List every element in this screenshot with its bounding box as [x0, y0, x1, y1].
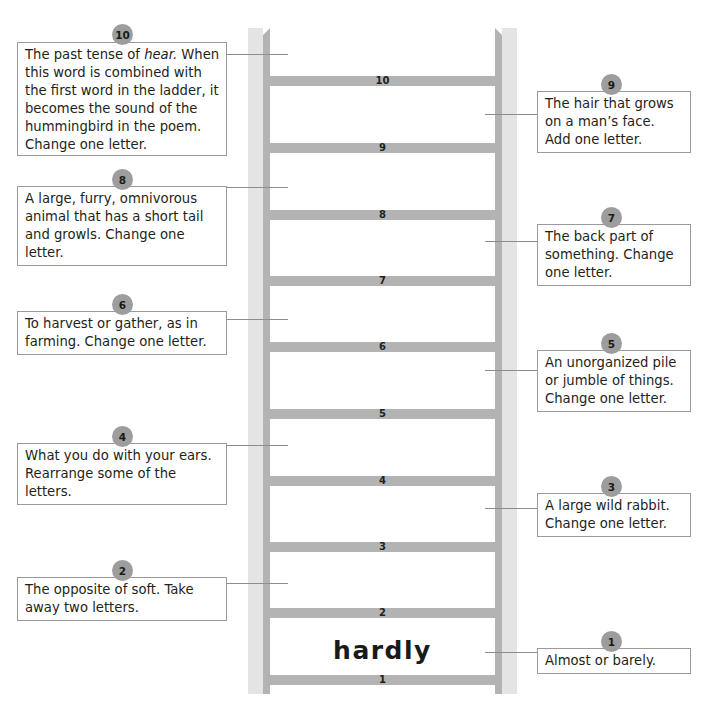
- connector-4: [227, 445, 288, 446]
- rung-7: 7: [270, 276, 495, 286]
- connector-2: [227, 583, 288, 584]
- clue-box-4: What you do with your ears. Rearrange so…: [17, 443, 227, 505]
- answer-slot-3[interactable]: [270, 486, 495, 542]
- number-badge-3: 3: [601, 476, 622, 497]
- ladder-left-rail-face: [248, 28, 263, 694]
- rung-5: 5: [270, 409, 495, 419]
- rung-8: 8: [270, 210, 495, 220]
- answer-slot-10[interactable]: [270, 28, 495, 76]
- connector-7: [485, 241, 537, 242]
- number-badge-10: 10: [112, 24, 133, 45]
- rung-number: 10: [376, 76, 390, 86]
- clue-text: An unorganized pile or jumble of things.…: [545, 355, 676, 406]
- clue-box-8: A large, furry, omnivorous animal that h…: [17, 186, 227, 266]
- answer-slot-9[interactable]: [270, 86, 495, 143]
- rung-number: 9: [379, 143, 386, 153]
- connector-5: [485, 370, 537, 371]
- connector-6: [227, 319, 288, 320]
- rung-number: 6: [379, 342, 386, 352]
- rung-number: 8: [379, 210, 386, 220]
- clue-text-cont: When this word is combined with the firs…: [25, 47, 219, 152]
- ladder-left-rail-side: [263, 28, 270, 694]
- clue-box-7: The back part of something. Change one l…: [537, 224, 691, 286]
- connector-9: [485, 114, 537, 115]
- number-badge-4: 4: [112, 426, 133, 447]
- clue-emphasis: hear.: [144, 47, 177, 62]
- rung-10: 10: [270, 76, 495, 86]
- number-badge-1: 1: [601, 631, 622, 652]
- number-badge-7: 7: [601, 207, 622, 228]
- ladder-right-rail-side: [495, 28, 502, 694]
- rung-3: 3: [270, 542, 495, 552]
- rung-number: 2: [379, 608, 386, 618]
- clue-text: The back part of something. Change one l…: [545, 229, 674, 280]
- rung-4: 4: [270, 476, 495, 486]
- number-badge-6: 6: [112, 294, 133, 315]
- clue-box-3: A large wild rabbit. Change one letter.: [537, 493, 691, 537]
- rung-9: 9: [270, 143, 495, 153]
- answer-slot-5[interactable]: [270, 352, 495, 409]
- clue-box-5: An unorganized pile or jumble of things.…: [537, 350, 691, 412]
- rung-1: 1: [270, 675, 495, 685]
- start-word: hardly: [270, 636, 495, 665]
- connector-8: [227, 187, 288, 188]
- clue-text: A large wild rabbit. Change one letter.: [545, 498, 670, 531]
- clue-box-10: The past tense of hear. When this word i…: [17, 42, 227, 156]
- rung-number: 1: [379, 675, 386, 685]
- clue-box-1: Almost or barely.: [537, 648, 691, 674]
- number-badge-2: 2: [112, 560, 133, 581]
- ladder-left-rail-cap: [263, 28, 270, 35]
- clue-text: The past tense of: [25, 47, 144, 62]
- clue-text: The opposite of soft. Take away two lett…: [25, 582, 194, 615]
- answer-slot-8[interactable]: [270, 153, 495, 210]
- ladder-right-rail-face: [502, 28, 517, 694]
- rung-number: 3: [379, 542, 386, 552]
- number-badge-9: 9: [601, 74, 622, 95]
- connector-10: [227, 54, 288, 55]
- number-badge-8: 8: [112, 169, 133, 190]
- rung-number: 5: [379, 409, 386, 419]
- rung-2: 2: [270, 608, 495, 618]
- clue-text: Almost or barely.: [545, 653, 656, 668]
- answer-slot-6[interactable]: [270, 286, 495, 342]
- rung-6: 6: [270, 342, 495, 352]
- clue-box-6: To harvest or gather, as in farming. Cha…: [17, 311, 227, 355]
- answer-slot-7[interactable]: [270, 220, 495, 276]
- connector-3: [485, 508, 537, 509]
- answer-slot-4[interactable]: [270, 419, 495, 476]
- clue-box-9: The hair that grows on a man’s face. Add…: [537, 91, 691, 153]
- clue-text: What you do with your ears. Rearrange so…: [25, 448, 212, 499]
- clue-text: To harvest or gather, as in farming. Cha…: [25, 316, 207, 349]
- answer-slot-2[interactable]: [270, 552, 495, 608]
- clue-text: The hair that grows on a man’s face. Add…: [545, 96, 674, 147]
- ladder-right-rail-cap: [495, 28, 502, 35]
- clue-text: A large, furry, omnivorous animal that h…: [25, 191, 203, 260]
- rung-number: 7: [379, 276, 386, 286]
- number-badge-5: 5: [601, 333, 622, 354]
- clue-box-2: The opposite of soft. Take away two lett…: [17, 577, 227, 621]
- rung-number: 4: [379, 476, 386, 486]
- connector-1: [485, 652, 537, 653]
